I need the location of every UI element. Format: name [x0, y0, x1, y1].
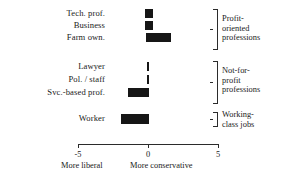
row-label-worker: Worker [79, 114, 105, 123]
group-label-profit-oriented: Profit- oriented professions [222, 14, 260, 43]
group-bracket-working-class [213, 112, 218, 127]
axis-tick-zero [148, 144, 149, 148]
row-label-lawyer: Lawyer [78, 62, 105, 71]
axis-caption-right: More conservative [130, 161, 193, 170]
row-label-svc-based-prof: Svc.-based prof. [47, 88, 105, 97]
group-label-not-for-profit-line1: Not-for- [222, 66, 260, 76]
axis-tick-minus5 [78, 144, 79, 148]
axis-caption-left: More liberal [61, 161, 103, 170]
group-label-not-for-profit-line2: profit [222, 76, 260, 86]
group-bracket-nub-profit-oriented [210, 29, 213, 30]
group-bracket-not-for-profit [213, 61, 218, 104]
group-label-working-class-line2: class jobs [222, 120, 254, 130]
group-bracket-nub-working-class [210, 119, 213, 120]
row-label-business: Business [74, 21, 105, 30]
group-label-not-for-profit-line3: professions [222, 85, 260, 95]
bar-chart: Tech. prof. Business Farm own. Lawyer Po… [0, 0, 285, 175]
bar-svc-based-prof [128, 88, 149, 97]
group-label-working-class: Working- class jobs [222, 110, 254, 129]
bar-tech-prof [145, 9, 153, 18]
bar-lawyer [147, 62, 149, 71]
bar-business [145, 21, 153, 30]
group-label-profit-oriented-line2: oriented [222, 24, 260, 34]
row-label-tech-prof: Tech. prof. [67, 9, 105, 18]
group-label-profit-oriented-line1: Profit- [222, 14, 260, 24]
bar-farm-own [146, 33, 171, 42]
group-label-not-for-profit: Not-for- profit professions [222, 66, 260, 95]
axis-ticklabel-minus5: -5 [68, 150, 88, 159]
row-label-farm-own: Farm own. [67, 33, 105, 42]
axis-tick-plus5 [218, 144, 219, 148]
group-label-profit-oriented-line3: professions [222, 33, 260, 43]
row-label-pol-staff: Pol. / staff [68, 75, 105, 84]
axis-ticklabel-zero: 0 [138, 150, 158, 159]
bar-pol-staff [147, 75, 149, 84]
group-bracket-nub-not-for-profit [210, 82, 213, 83]
axis-ticklabel-plus5: 5 [208, 150, 228, 159]
group-label-working-class-line1: Working- [222, 110, 254, 120]
bar-worker [121, 114, 149, 124]
group-bracket-profit-oriented [213, 9, 218, 50]
